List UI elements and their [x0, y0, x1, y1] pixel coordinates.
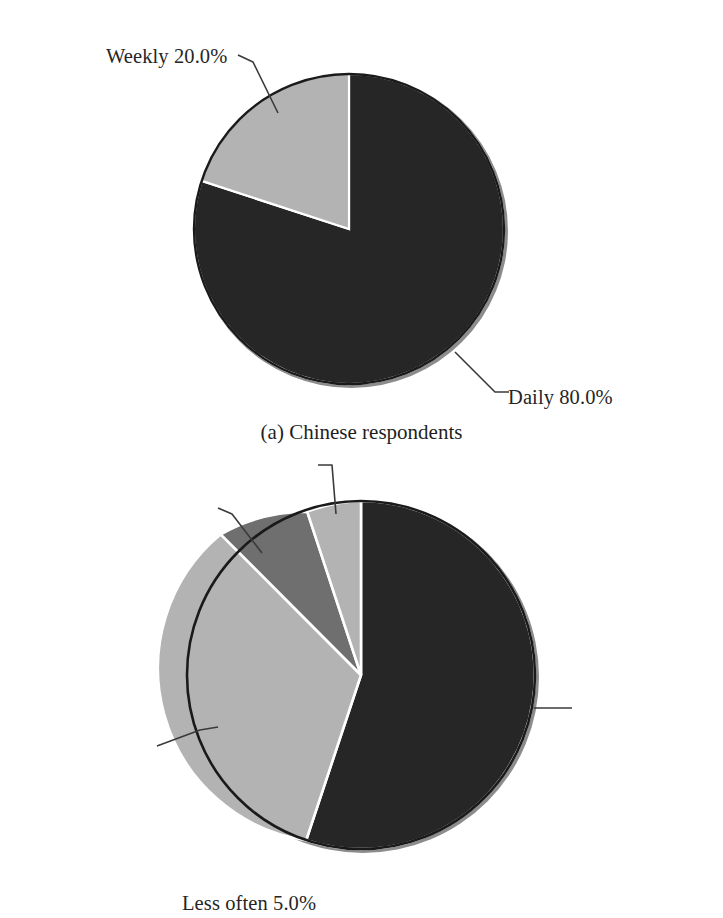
chart-czech-respondents: Less often 5.0% Monthly 10.0% Weekly 30.… — [0, 440, 723, 918]
pie-a-label-daily: Daily 80.0% — [508, 386, 613, 409]
leader-line-a-daily — [455, 352, 509, 392]
pie-chart-b-graphic — [0, 440, 723, 918]
pie-b-label-less-often: Less often 5.0% — [182, 892, 316, 915]
chart-chinese-respondents: Weekly 20.0% Daily 80.0% (a) Chinese res… — [0, 0, 723, 460]
pie-chart-figure: Weekly 20.0% Daily 80.0% (a) Chinese res… — [0, 0, 723, 918]
pie-a-label-weekly: Weekly 20.0% — [106, 45, 227, 68]
pie-chart-a-graphic — [0, 0, 723, 460]
